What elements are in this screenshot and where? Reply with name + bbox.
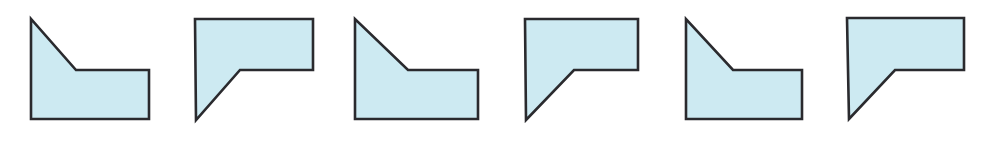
- pentagon-tile-3-graphic: Shape 3 — diagonal-top-left-descending: [342, 8, 488, 133]
- pentagon-tile-5: Shape 5 — diagonal-top-left-descending: [673, 8, 819, 133]
- pentagon-tile-4: Shape 4 — diagonal-bottom-left-ascending: [512, 8, 658, 133]
- pentagon-tile-4-outline: Shape 4 — diagonal-bottom-left-ascending: [525, 19, 638, 120]
- pentagon-tile-2-outline: Shape 2 — diagonal-bottom-left-ascending: [195, 19, 313, 120]
- pentagon-tile-5-graphic: Shape 5 — diagonal-top-left-descending: [673, 8, 819, 133]
- pentagon-tile-1-graphic: Shape 1 — diagonal-top-left-descending: [18, 8, 164, 133]
- pentagon-tile-1-outline: Shape 1 — diagonal-top-left-descending: [31, 19, 149, 119]
- pentagon-tile-1: Shape 1 — diagonal-top-left-descending: [18, 8, 164, 133]
- pentagon-tile-3: Shape 3 — diagonal-top-left-descending: [342, 8, 488, 133]
- pentagon-tile-4-graphic: Shape 4 — diagonal-bottom-left-ascending: [512, 8, 658, 133]
- pentagon-tile-6: Shape 6 — diagonal-bottom-left-ascending: [834, 8, 980, 133]
- shape-row: Shape 1 — diagonal-top-left-descendingSh…: [0, 0, 988, 141]
- pentagon-tile-2-graphic: Shape 2 — diagonal-bottom-left-ascending: [183, 8, 329, 133]
- pentagon-tile-6-graphic: Shape 6 — diagonal-bottom-left-ascending: [834, 8, 980, 133]
- pentagon-tile-5-outline: Shape 5 — diagonal-top-left-descending: [686, 19, 802, 119]
- figure-canvas: Shape 1 — diagonal-top-left-descendingSh…: [0, 0, 988, 141]
- pentagon-tile-6-outline: Shape 6 — diagonal-bottom-left-ascending: [847, 18, 964, 119]
- pentagon-tile-2: Shape 2 — diagonal-bottom-left-ascending: [183, 8, 329, 133]
- pentagon-tile-3-outline: Shape 3 — diagonal-top-left-descending: [355, 19, 478, 119]
